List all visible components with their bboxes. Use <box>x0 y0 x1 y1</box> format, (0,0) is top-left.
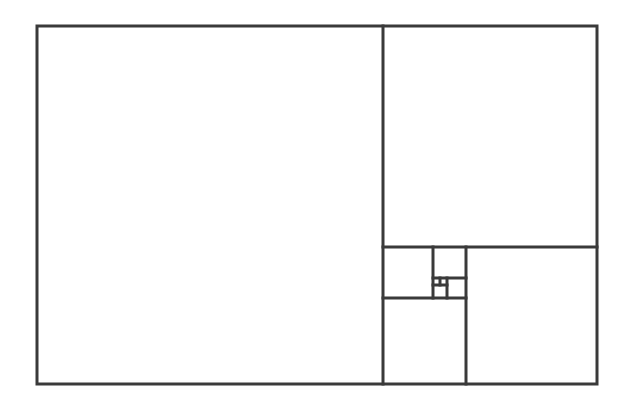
outer-rectangle <box>37 26 597 384</box>
golden-rectangle-diagram <box>0 0 631 407</box>
subdivision-lines <box>383 26 597 384</box>
